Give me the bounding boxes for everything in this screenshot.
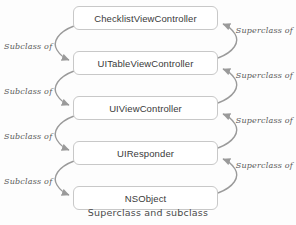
subclass-arrows bbox=[55, 26, 74, 195]
class-box-uitableviewcontroller[interactable]: UITableViewController bbox=[73, 51, 218, 75]
edge-label-superclass-of-4: Superclass of bbox=[236, 161, 293, 170]
edge-label-subclass-of-2: Subclass of bbox=[4, 87, 52, 96]
edge-label-superclass-of-1: Superclass of bbox=[236, 26, 293, 35]
subclass-arrow-2 bbox=[55, 71, 74, 105]
subclass-arrow-1 bbox=[55, 26, 74, 60]
subclass-arrow-4 bbox=[55, 161, 74, 195]
superclass-arrows bbox=[218, 24, 237, 193]
superclass-arrow-2 bbox=[218, 69, 237, 103]
edge-label-subclass-of-3: Subclass of bbox=[4, 132, 52, 141]
edge-label-superclass-of-3: Superclass of bbox=[236, 116, 293, 125]
edge-label-subclass-of-1: Subclass of bbox=[4, 42, 52, 51]
class-box-label: ChecklistViewController bbox=[94, 13, 196, 24]
class-box-uiresponder[interactable]: UIResponder bbox=[73, 141, 218, 165]
diagram-caption: Superclass and subclass bbox=[0, 207, 296, 218]
superclass-arrow-1 bbox=[218, 24, 237, 58]
class-box-label: UIViewController bbox=[109, 103, 182, 114]
superclass-arrow-4 bbox=[218, 159, 237, 193]
subclass-arrow-3 bbox=[55, 116, 74, 150]
edge-label-superclass-of-2: Superclass of bbox=[236, 71, 293, 80]
class-box-label: NSObject bbox=[125, 193, 166, 204]
class-box-label: UITableViewController bbox=[98, 58, 194, 69]
class-hierarchy-diagram: ChecklistViewController UITableViewContr… bbox=[0, 0, 296, 225]
superclass-arrow-3 bbox=[218, 114, 237, 148]
class-box-uiviewcontroller[interactable]: UIViewController bbox=[73, 96, 218, 120]
class-box-checklistviewcontroller[interactable]: ChecklistViewController bbox=[73, 6, 218, 30]
class-box-label: UIResponder bbox=[117, 148, 174, 159]
edge-label-subclass-of-4: Subclass of bbox=[4, 177, 52, 186]
